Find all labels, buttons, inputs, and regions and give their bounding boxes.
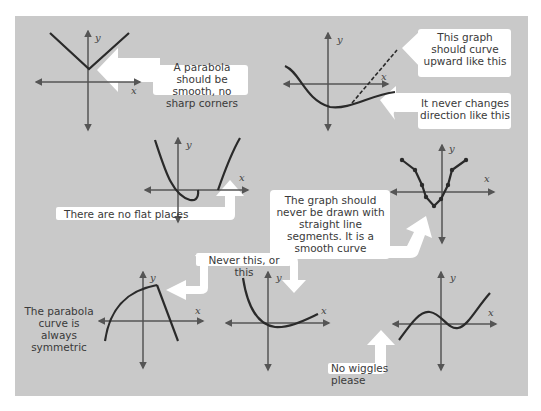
callout-no-wiggles: No wiggles please xyxy=(328,362,421,386)
arrow-never-changes xyxy=(380,86,422,120)
svg-text:y: y xyxy=(448,143,455,154)
svg-text:x: x xyxy=(488,307,494,318)
svg-text:y: y xyxy=(149,272,156,283)
graph-asymmetric-decay: y x xyxy=(226,272,329,370)
graph-flattening: y x xyxy=(284,33,397,130)
svg-text:x: x xyxy=(239,172,245,183)
svg-text:x: x xyxy=(321,305,327,316)
callout-straight-segments: The graph should never be drawn with str… xyxy=(272,194,389,254)
svg-text:x: x xyxy=(195,305,201,316)
x-axis-label: x xyxy=(131,85,137,96)
callout-never-this: Never this, or this xyxy=(198,254,290,278)
callout-sharp-corners: A parabola should be smooth, no sharp co… xyxy=(157,61,247,109)
graph-wiggle: y x xyxy=(393,272,496,370)
svg-text:y: y xyxy=(185,139,192,150)
svg-text:y: y xyxy=(449,272,456,283)
y-axis-label: y xyxy=(94,32,101,43)
graph-segments: y x xyxy=(391,143,494,243)
svg-text:x: x xyxy=(381,71,387,82)
callout-no-flat: There are no flat places xyxy=(58,208,229,220)
callout-curve-upward: This graph should curve upward like this xyxy=(420,31,510,67)
svg-text:y: y xyxy=(336,34,343,45)
label-symmetric: The parabola curve is always symmetric xyxy=(24,305,94,353)
svg-text:x: x xyxy=(484,173,490,184)
callout-never-changes: It never changes direction like this xyxy=(420,97,510,121)
